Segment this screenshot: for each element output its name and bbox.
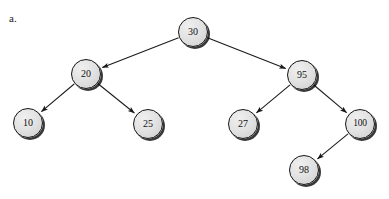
tree-node-label: 30 <box>188 27 198 37</box>
tree-node-label: 20 <box>81 69 91 79</box>
tree-node-27[interactable]: 27 <box>228 109 258 139</box>
tree-edge-100-to-98 <box>318 134 349 159</box>
tree-edge-95-to-100 <box>314 85 347 113</box>
tree-diagram-canvas: a. 30209510252710098 <box>0 0 389 199</box>
tree-node-label: 27 <box>238 119 248 129</box>
tree-node-label: 95 <box>297 70 307 80</box>
tree-edge-20-to-25 <box>98 84 134 113</box>
tree-edge-95-to-27 <box>256 85 290 113</box>
tree-node-98[interactable]: 98 <box>289 155 319 185</box>
tree-node-label: 10 <box>23 118 33 128</box>
tree-node-label: 98 <box>299 165 309 175</box>
tree-edge-20-to-10 <box>41 84 74 112</box>
tree-node-100[interactable]: 100 <box>345 109 375 139</box>
tree-node-label: 100 <box>353 119 367 129</box>
tree-node-95[interactable]: 95 <box>287 60 317 90</box>
tree-node-10[interactable]: 10 <box>13 108 43 138</box>
tree-node-25[interactable]: 25 <box>133 109 163 139</box>
tree-node-label: 25 <box>143 119 153 129</box>
tree-edge-30-to-95 <box>207 38 285 69</box>
tree-edge-30-to-20 <box>102 38 178 68</box>
tree-node-30[interactable]: 30 <box>178 17 208 47</box>
tree-node-20[interactable]: 20 <box>71 59 101 89</box>
